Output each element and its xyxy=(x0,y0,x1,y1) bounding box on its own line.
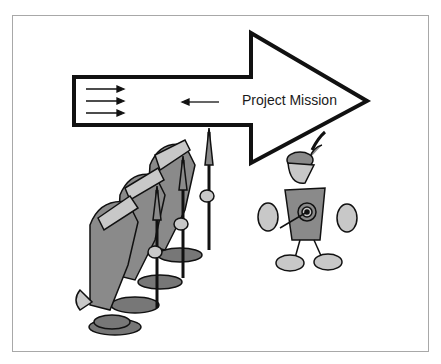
soldiers-group-icon xyxy=(76,128,214,335)
diagram-canvas xyxy=(0,0,441,364)
mission-label: Project Mission xyxy=(242,92,337,108)
